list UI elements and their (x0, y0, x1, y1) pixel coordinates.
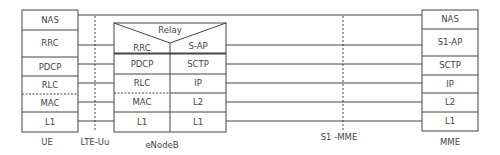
ue-label: UE (41, 137, 53, 147)
mme-layer-nas: NAS (441, 14, 459, 24)
enodeb-layer-s-ap: S-AP (188, 41, 207, 51)
ue-layer-pdcp: PDCP (39, 62, 62, 72)
ue-layer-rrc: RRC (41, 38, 58, 48)
enodeb-label: eNodeB (145, 140, 178, 150)
mme-layer-l1: L1 (445, 116, 455, 126)
enodeb-layer-rrc: RRC (133, 43, 150, 53)
lte-uu-label: LTE-Uu (81, 137, 110, 147)
protocol-stack-diagram: NAS RRC PDCP RLC MAC L1 Relay RRC PDCP R… (0, 0, 500, 155)
ue-layer-l1: L1 (45, 117, 55, 127)
mme-stack (422, 10, 478, 131)
enodeb-layer-ip: IP (194, 78, 202, 88)
enodeb-layer-mac: MAC (133, 97, 152, 107)
enodeb-layer-sctp: SCTP (187, 59, 209, 69)
mme-layer-ip: IP (446, 79, 454, 89)
enodeb-stack (114, 23, 226, 132)
ue-layer-nas: NAS (41, 15, 59, 25)
mme-layer-sctp: SCTP (439, 60, 461, 70)
enodeb-layer-l2: L2 (193, 97, 203, 107)
ue-layer-rlc: RLC (42, 80, 59, 90)
enodeb-layer-l1-left: L1 (137, 117, 147, 127)
mme-label: MME (440, 137, 460, 147)
relay-label: Relay (158, 25, 181, 35)
enodeb-layer-rlc: RLC (134, 78, 151, 88)
enodeb-layer-pdcp: PDCP (131, 59, 154, 69)
mme-layer-l2: L2 (445, 97, 455, 107)
ue-layer-mac: MAC (41, 98, 60, 108)
enodeb-layer-l1-right: L1 (193, 117, 203, 127)
s1-mme-label: S1 -MME (321, 132, 358, 142)
mme-layer-s1-ap: S1-AP (438, 37, 463, 47)
